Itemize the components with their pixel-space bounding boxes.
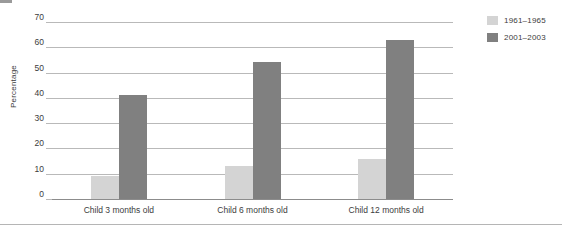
y-tick-label: 20 <box>35 138 44 148</box>
bar-pair <box>319 22 453 199</box>
bar-2[interactable] <box>253 62 281 199</box>
bar-group: Child 3 months old <box>52 22 186 199</box>
bar-groups: Child 3 months oldChild 6 months oldChil… <box>52 22 453 199</box>
bar-1[interactable] <box>358 159 386 199</box>
bar-group: Child 12 months old <box>319 22 453 199</box>
y-tick-label: 50 <box>35 63 44 73</box>
legend-label-series-1: 1961–1965 <box>504 16 546 25</box>
y-tick-label: 70 <box>35 12 44 22</box>
gridline <box>52 199 453 200</box>
legend-item-series-2[interactable]: 2001–2003 <box>487 31 546 44</box>
x-tick-label: Child 6 months old <box>186 205 320 215</box>
x-tick-label: Child 3 months old <box>52 205 186 215</box>
legend-label-series-2: 2001–2003 <box>504 33 546 42</box>
x-tick-label: Child 12 months old <box>319 205 453 215</box>
legend-swatch-icon-series-2 <box>487 33 498 42</box>
bar-pair <box>186 22 320 199</box>
top-rule-fragment <box>0 0 12 3</box>
bar-1[interactable] <box>225 166 253 199</box>
y-tick-label: 10 <box>35 164 44 174</box>
y-tick-mark <box>46 199 52 200</box>
bar-chart: Percentage 010203040506070 Child 3 month… <box>0 0 562 231</box>
bottom-divider <box>0 224 562 225</box>
legend-item-series-1[interactable]: 1961–1965 <box>487 14 546 27</box>
bar-pair <box>52 22 186 199</box>
legend: 1961–1965 2001–2003 <box>487 14 546 48</box>
legend-swatch-icon-series-1 <box>487 16 498 25</box>
y-tick-label: 30 <box>35 113 44 123</box>
bar-2[interactable] <box>119 95 147 199</box>
y-axis-title: Percentage <box>9 47 18 127</box>
plot-area: 010203040506070 Child 3 months oldChild … <box>52 22 453 199</box>
bar-group: Child 6 months old <box>186 22 320 199</box>
y-tick-label: 60 <box>35 37 44 47</box>
bar-2[interactable] <box>386 40 414 199</box>
y-tick-label: 0 <box>39 189 44 199</box>
bar-1[interactable] <box>91 176 119 199</box>
y-tick-label: 40 <box>35 88 44 98</box>
